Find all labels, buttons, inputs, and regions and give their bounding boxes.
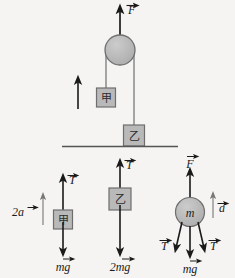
fbd-yi-weight-label: 2mg xyxy=(110,260,131,274)
fbd-pulley-body: m xyxy=(176,198,205,227)
fbd-yi-body-label: 乙 xyxy=(115,193,126,206)
main-block-yi: 乙 xyxy=(124,125,145,146)
fbd-pulley-tension-right-label: T xyxy=(210,239,218,253)
fbd-pulley-tension-right-arrow xyxy=(198,222,204,248)
fbd-pulley-tension-left-arrow xyxy=(176,222,182,248)
fbd-jia-weight-label: mg xyxy=(56,260,71,274)
fbd-jia-accel-label: 2a xyxy=(12,205,24,219)
figure-canvas: F 甲 乙 2a T 甲 mg T xyxy=(0,0,235,278)
physics-diagram-svg: F 甲 乙 2a T 甲 mg T xyxy=(0,0,235,278)
main-block-yi-label: 乙 xyxy=(129,130,140,143)
main-block-jia-label: 甲 xyxy=(101,92,112,105)
main-block-jia: 甲 xyxy=(97,88,116,107)
fbd-pulley-weight-label: mg xyxy=(183,262,198,276)
fbd-pulley-force-label: F xyxy=(185,157,194,171)
pulley xyxy=(105,35,135,65)
fbd-pulley-tension-left-label: T xyxy=(161,239,169,253)
fbd-pulley-body-label: m xyxy=(186,206,195,220)
